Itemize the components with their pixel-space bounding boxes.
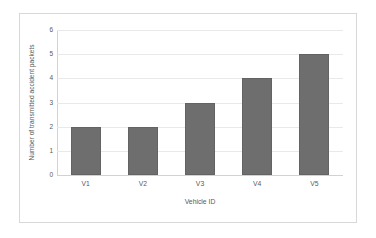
bar-slot-V3: [171, 30, 228, 175]
x-tick-label-V5: V5: [286, 181, 343, 188]
y-axis-title: Number of transmitted accident packets: [29, 30, 39, 175]
y-tick-label: 6: [49, 27, 57, 34]
y-tick-label: 1: [49, 148, 57, 155]
x-tick-label-V1: V1: [57, 181, 114, 188]
chart-figure: 0123456 V1V2V3V4V5 Vehicle ID Number of …: [0, 0, 376, 238]
x-tick-label-V4: V4: [229, 181, 286, 188]
bar-series: [57, 30, 343, 175]
x-tick-label-V2: V2: [114, 181, 171, 188]
x-axis-title: Vehicle ID: [57, 199, 343, 206]
y-tick-label: 2: [49, 123, 57, 130]
bar-slot-V2: [114, 30, 171, 175]
bar-V3: [185, 103, 215, 176]
bar-V2: [128, 127, 158, 175]
y-tick-label: 0: [49, 172, 57, 179]
bar-slot-V4: [229, 30, 286, 175]
y-tick-label: 3: [49, 99, 57, 106]
y-tick-label: 5: [49, 51, 57, 58]
bar-V5: [299, 54, 329, 175]
x-tick-label-V3: V3: [171, 181, 228, 188]
bar-V1: [71, 127, 101, 175]
plot-area: 0123456: [57, 30, 343, 175]
bar-V4: [242, 78, 272, 175]
bar-slot-V1: [57, 30, 114, 175]
x-axis-tick-labels: V1V2V3V4V5: [57, 181, 343, 188]
gridline-0: 0: [57, 175, 343, 176]
y-tick-label: 4: [49, 75, 57, 82]
bar-slot-V5: [286, 30, 343, 175]
